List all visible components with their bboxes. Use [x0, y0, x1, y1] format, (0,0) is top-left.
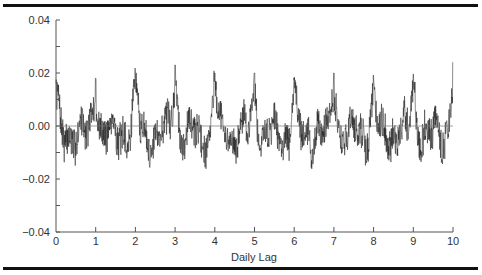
y-tick-label: 0.04: [29, 14, 50, 26]
y-tick-label: 0.02: [29, 67, 50, 79]
y-tick-label: −0.02: [22, 173, 50, 185]
x-tick-label: 6: [291, 235, 297, 247]
x-tick-label: 2: [132, 235, 138, 247]
x-tick-labels: 012345678910: [53, 235, 459, 247]
x-axis: [56, 227, 453, 232]
autocorrelation-chart: 0.040.020.00−0.02−0.04 012345678910 Dail…: [0, 0, 482, 275]
x-tick-label: 4: [212, 235, 218, 247]
x-tick-label: 0: [53, 235, 59, 247]
y-tick-labels: 0.040.020.00−0.02−0.04: [22, 14, 50, 238]
x-tick-label: 5: [251, 235, 257, 247]
x-tick-label: 3: [172, 235, 178, 247]
data-series-trace: [56, 62, 453, 169]
y-axis: [56, 20, 60, 232]
x-tick-label: 1: [93, 235, 99, 247]
y-tick-label: 0.00: [29, 120, 50, 132]
bottom-rule: [3, 267, 478, 270]
y-tick-label: −0.04: [22, 226, 50, 238]
x-tick-label: 8: [371, 235, 377, 247]
x-tick-label: 9: [410, 235, 416, 247]
x-tick-label: 10: [447, 235, 459, 247]
x-tick-label: 7: [331, 235, 337, 247]
x-axis-title: Daily Lag: [231, 251, 277, 263]
series-line: [56, 62, 453, 169]
